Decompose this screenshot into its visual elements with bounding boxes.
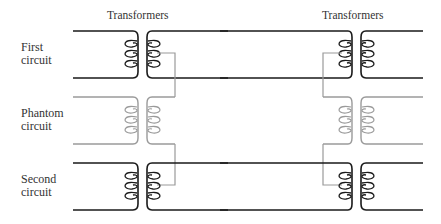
first-circuit — [73, 31, 423, 78]
second-circuit — [73, 163, 423, 210]
circuit-diagram — [0, 0, 441, 224]
phantom-circuit — [73, 53, 423, 185]
